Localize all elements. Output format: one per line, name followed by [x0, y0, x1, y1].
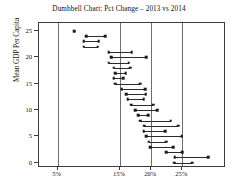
dumbbell-dot-start [174, 156, 177, 159]
plot-area [38, 22, 225, 167]
gridline [58, 23, 59, 166]
dumbbell-dot-start [110, 56, 113, 59]
dumbbell-dot-start [139, 119, 142, 122]
dumbbell-dot-end [145, 56, 148, 59]
y-axis-tick-label: 25 [25, 26, 32, 33]
dumbbell-dot-start [165, 151, 168, 154]
dumbbell-dot-end [180, 135, 183, 138]
x-axis-tick-label: 15% [113, 170, 125, 177]
x-axis-tick-label: 25% [175, 170, 187, 177]
dumbbell-connector [174, 163, 192, 164]
x-axis-tick-label: 20% [144, 170, 156, 177]
dumbbell-dot-end [96, 45, 99, 48]
dumbbell-dot-start [113, 67, 116, 70]
dumbbell-connector [111, 57, 146, 58]
dumbbell-connector [115, 84, 140, 85]
dumbbell-dot-start [83, 40, 86, 43]
dumbbell-connector [146, 136, 182, 137]
dumbbell-dot-end [169, 119, 172, 122]
dumbbell-dot-start [125, 93, 128, 96]
dumbbell-connector [114, 68, 130, 69]
dumbbell-connector [135, 110, 157, 111]
gridline [120, 23, 121, 166]
dumbbell-dot-end [139, 82, 142, 85]
dumbbell-dot-start [108, 61, 111, 64]
dumbbell-connector [128, 99, 144, 100]
dumbbell-dot-start [130, 103, 133, 106]
dumbbell-dot-start [114, 82, 117, 85]
dumbbell-connector [86, 36, 105, 37]
dumbbell-dot-start [121, 88, 124, 91]
dumbbell-dot-end [142, 98, 145, 101]
dumbbell-dot-end [156, 109, 159, 112]
dumbbell-dot-start [108, 51, 111, 54]
dumbbell-dot-start [73, 30, 76, 33]
dumbbell-connector [149, 142, 166, 143]
dumbbell-dot-start [83, 45, 86, 48]
dumbbell-connector [126, 94, 145, 95]
dumbbell-dot-start [114, 72, 117, 75]
dumbbell-dot-end [152, 103, 155, 106]
dumbbell-dot-end [147, 114, 150, 117]
y-axis-label: Mean GDP Per Capita [13, 0, 21, 115]
y-axis-tick-label: 15 [25, 79, 32, 86]
dumbbell-dot-start [145, 135, 148, 138]
dumbbell-connector [144, 126, 178, 127]
dumbbell-connector [150, 147, 173, 148]
dumbbell-dot-start [113, 77, 116, 80]
dumbbell-dot-end [124, 72, 127, 75]
dumbbell-dot-end [172, 146, 175, 149]
y-axis-tick-label: 5 [29, 132, 32, 139]
dumbbell-connector [175, 157, 208, 158]
dumbbell-dot-start [137, 114, 140, 117]
dumbbell-dot-start [143, 125, 146, 128]
dumbbell-chart-figure: Dumbbell Chart: Pct Change – 2013 vs 201… [0, 0, 238, 193]
dumbbell-dot-start [142, 130, 145, 133]
dumbbell-dot-start [126, 98, 129, 101]
dumbbell-dot-end [144, 88, 147, 91]
y-axis-tick-label: 10 [25, 106, 32, 113]
dumbbell-dot-end [181, 151, 184, 154]
dumbbell-dot-start [85, 35, 88, 38]
dumbbell-dot-end [165, 140, 168, 143]
y-axis-tick-label: 0 [29, 158, 32, 165]
dumbbell-dot-end [127, 61, 130, 64]
dumbbell-connector [166, 152, 182, 153]
dumbbell-dot-end [104, 35, 107, 38]
dumbbell-connector [109, 63, 129, 64]
gridline [182, 23, 183, 166]
chart-title: Dumbbell Chart: Pct Change – 2013 vs 201… [0, 5, 238, 13]
dumbbell-connector [109, 52, 132, 53]
dumbbell-dot-end [98, 40, 101, 43]
dumbbell-connector [144, 131, 165, 132]
dumbbell-connector [122, 89, 145, 90]
dumbbell-dot-end [207, 156, 210, 159]
dumbbell-dot-end [122, 77, 125, 80]
dumbbell-dot-start [147, 140, 150, 143]
dumbbell-dot-start [134, 109, 137, 112]
dumbbell-dot-end [191, 161, 194, 164]
dumbbell-dot-end [177, 125, 180, 128]
dumbbell-dot-end [129, 67, 132, 70]
dumbbell-dot-end [144, 93, 147, 96]
y-axis-tick-label: 20 [25, 53, 32, 60]
dumbbell-dot-end [131, 51, 134, 54]
dumbbell-dot-start [149, 146, 152, 149]
x-axis-tick-label: 5% [52, 170, 61, 177]
dumbbell-dot-end [164, 130, 167, 133]
dumbbell-connector [140, 121, 171, 122]
dumbbell-dot-start [173, 161, 176, 164]
gridline [151, 23, 152, 166]
dumbbell-connector [131, 105, 153, 106]
